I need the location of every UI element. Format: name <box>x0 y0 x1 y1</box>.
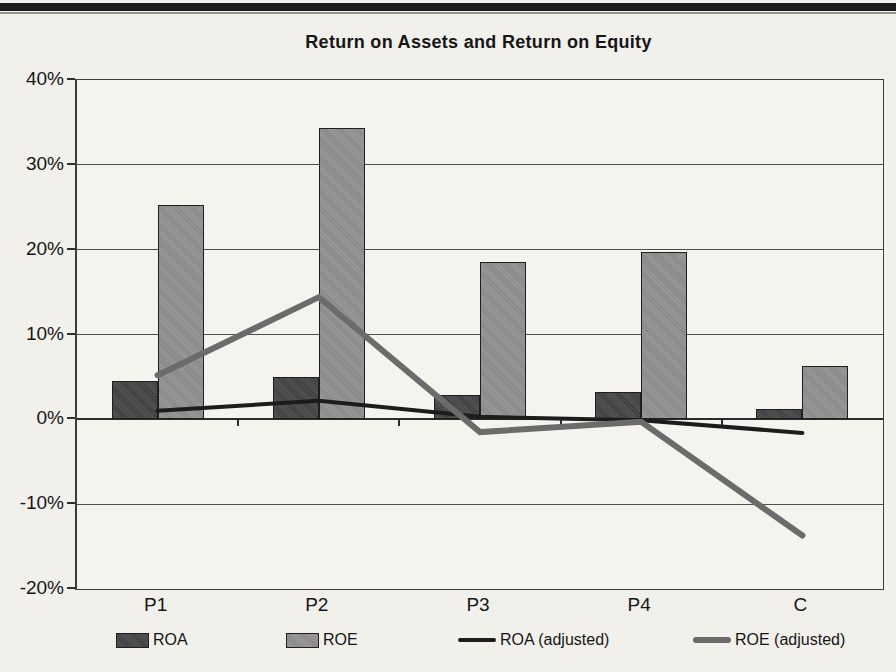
legend-item-roa: ROA <box>116 629 188 651</box>
y-axis-tick-20 <box>67 587 75 589</box>
x-axis-label-p3: P3 <box>448 595 508 615</box>
legend-item-roe-adjusted: ROE (adjusted) <box>693 629 845 651</box>
y-axis-label-40: 40% <box>0 69 64 89</box>
y-axis-label-20: -20% <box>0 578 64 598</box>
x-axis-label-c: C <box>770 595 830 615</box>
y-axis-label-20: 20% <box>0 239 64 259</box>
plot-area <box>75 79 884 590</box>
x-axis-label-p2: P2 <box>287 595 347 615</box>
legend-label-roa: ROA <box>153 631 188 649</box>
legend-item-roe: ROE <box>286 629 358 651</box>
y-axis-tick-10 <box>67 333 75 335</box>
chart-title: Return on Assets and Return on Equity <box>75 32 882 53</box>
y-axis-label-10: 10% <box>0 324 64 344</box>
adjusted-lines-layer <box>77 80 883 589</box>
legend-label-roe: ROE <box>323 631 358 649</box>
page-top-rule <box>0 3 896 11</box>
scanned-report-page: Return on Assets and Return on Equity 40… <box>0 0 896 672</box>
y-axis-label-0: 0% <box>0 408 64 428</box>
line-roa-adjusted <box>158 401 803 433</box>
roa-bar-swatch <box>116 633 149 648</box>
y-axis-tick-20 <box>67 248 75 250</box>
y-axis-label-10: -10% <box>0 493 64 513</box>
x-axis-label-p1: P1 <box>126 595 186 615</box>
legend-label-roe-adjusted: ROE (adjusted) <box>735 631 845 649</box>
y-axis-tick-0 <box>67 417 75 419</box>
y-axis-tick-40 <box>67 78 75 80</box>
roe-adjusted-line-swatch <box>693 637 731 643</box>
page-top-rule-shadow <box>0 12 896 14</box>
roa-adjusted-line-swatch <box>458 638 496 642</box>
legend: ROA ROE ROA (adjusted) ROE (adjusted) <box>0 629 896 651</box>
legend-label-roa-adjusted: ROA (adjusted) <box>500 631 609 649</box>
y-axis-tick-30 <box>67 163 75 165</box>
y-axis-label-30: 30% <box>0 154 64 174</box>
roe-bar-swatch <box>286 633 319 648</box>
legend-item-roa-adjusted: ROA (adjusted) <box>458 629 609 651</box>
y-axis-tick-10 <box>67 502 75 504</box>
x-axis-label-p4: P4 <box>609 595 669 615</box>
